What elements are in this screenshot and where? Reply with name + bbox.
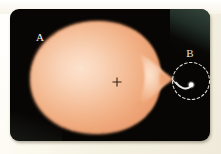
label-b: B [186,47,194,59]
label-a: A [36,31,44,43]
figure-plate: A B [10,9,210,141]
compact-object-dot [189,83,194,88]
primary-star-a [30,21,174,134]
star-a-body [31,22,161,133]
companion-b [172,63,210,100]
binary-system-diagram: A B [10,9,210,141]
